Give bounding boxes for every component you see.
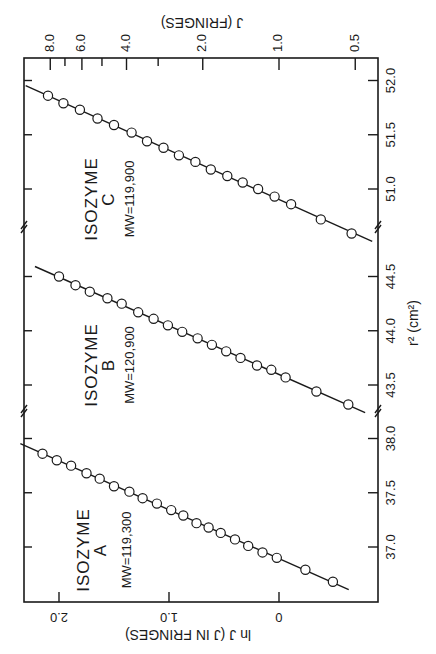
lnj-tick-label: 0 <box>275 610 282 625</box>
data-point-marker <box>281 373 290 382</box>
data-point-marker <box>117 299 126 308</box>
j-tick-label: 4.0 <box>118 34 133 52</box>
data-point-marker <box>125 487 134 496</box>
data-point-marker <box>174 151 183 160</box>
r2-tick-label: 44.0 <box>383 318 398 343</box>
data-point-marker <box>71 281 80 290</box>
series-isozyme-c <box>26 86 373 242</box>
data-point-marker <box>258 548 267 557</box>
data-point-marker <box>167 506 176 515</box>
r2-tick-label: 37.0 <box>383 534 398 559</box>
data-point-marker <box>152 499 161 508</box>
j-axis-title: J (FRINGES) <box>161 15 243 31</box>
data-point-marker <box>85 287 94 296</box>
data-point-marker <box>142 137 151 146</box>
data-point-marker <box>272 553 281 562</box>
molecular-weight-label: MW=119,300 <box>119 512 134 589</box>
isozyme-letter: A <box>91 544 110 556</box>
data-point-marker <box>67 461 76 470</box>
data-point-marker <box>328 577 337 586</box>
j-tick-label: 2.0 <box>194 34 209 52</box>
data-point-marker <box>163 321 172 330</box>
data-point-marker <box>270 192 279 201</box>
data-point-marker <box>82 469 91 478</box>
data-point-marker <box>222 347 231 356</box>
data-point-marker <box>191 157 200 166</box>
data-point-marker <box>138 494 147 503</box>
j-tick-label: 0.5 <box>347 34 362 52</box>
data-point-marker <box>230 535 239 544</box>
lnj-axis-title: ln J (J IN FRINGES) <box>125 627 251 643</box>
chart-svg: 37.037.538.043.544.044.551.051.552.02.01… <box>0 0 436 654</box>
data-point-marker <box>93 114 102 123</box>
axis-break-marks <box>21 221 381 417</box>
data-point-marker <box>52 456 61 465</box>
data-point-marker <box>238 178 247 187</box>
data-point-marker <box>95 474 104 483</box>
data-point-marker <box>103 294 112 303</box>
data-point-marker <box>206 165 215 174</box>
data-point-marker <box>312 387 321 396</box>
data-point-marker <box>236 353 245 362</box>
data-point-marker <box>159 143 168 152</box>
data-point-marker <box>178 327 187 336</box>
j-tick-label: 8.0 <box>42 34 57 52</box>
data-point-marker <box>134 308 143 317</box>
isozyme-letter: B <box>99 359 118 371</box>
data-point-marker <box>244 541 253 550</box>
data-point-marker <box>179 511 188 520</box>
isozyme-letter: C <box>99 192 118 205</box>
data-point-marker <box>43 91 52 100</box>
data-point-marker <box>254 184 263 193</box>
r2-tick-label: 51.0 <box>383 176 398 201</box>
data-point-marker <box>344 400 353 409</box>
data-point-marker <box>38 449 47 458</box>
data-point-marker <box>216 528 225 537</box>
data-point-marker <box>204 523 213 532</box>
data-series <box>20 86 372 590</box>
r2-tick-label: 51.5 <box>383 122 398 147</box>
series-label-c: ISOZYMECMW=119,900 <box>82 157 137 241</box>
molecular-weight-label: MW=119,900 <box>122 161 137 238</box>
series-isozyme-a <box>20 444 348 590</box>
data-point-marker <box>193 334 202 343</box>
series-label-b: ISOZYMEBMW=120,900 <box>82 323 137 407</box>
r2-axis-title: r² (cm²) <box>405 300 421 346</box>
data-point-marker <box>149 314 158 323</box>
j-tick-label: 1.0 <box>270 34 285 52</box>
data-point-marker <box>223 171 232 180</box>
data-point-marker <box>54 272 63 281</box>
data-point-marker <box>109 120 118 129</box>
data-point-marker <box>207 340 216 349</box>
data-point-marker <box>316 215 325 224</box>
r2-tick-label: 38.0 <box>383 426 398 451</box>
lnj-tick-label: 1.0 <box>160 610 178 625</box>
series-labels: ISOZYMEAMW=119,300ISOZYMEBMW=120,900ISOZ… <box>74 157 137 592</box>
r2-tick-label: 44.5 <box>383 264 398 289</box>
data-point-marker <box>301 565 310 574</box>
data-point-marker <box>287 200 296 209</box>
lnj-tick-label: 2.0 <box>50 610 68 625</box>
molecular-weight-label: MW=120,900 <box>122 326 137 404</box>
data-point-marker <box>127 128 136 137</box>
r2-tick-label: 43.5 <box>383 372 398 397</box>
chart-figure: 37.037.538.043.544.044.551.051.552.02.01… <box>0 0 436 654</box>
data-point-marker <box>347 229 356 238</box>
data-point-marker <box>192 519 201 528</box>
series-label-a: ISOZYMEAMW=119,300 <box>74 508 134 592</box>
data-point-marker <box>59 99 68 108</box>
data-point-marker <box>252 361 261 370</box>
r2-tick-label: 52.0 <box>383 68 398 93</box>
r2-tick-label: 37.5 <box>383 480 398 505</box>
data-point-marker <box>267 365 276 374</box>
j-tick-label: 6.0 <box>73 34 88 52</box>
data-point-marker <box>75 105 84 114</box>
data-point-marker <box>109 482 118 491</box>
